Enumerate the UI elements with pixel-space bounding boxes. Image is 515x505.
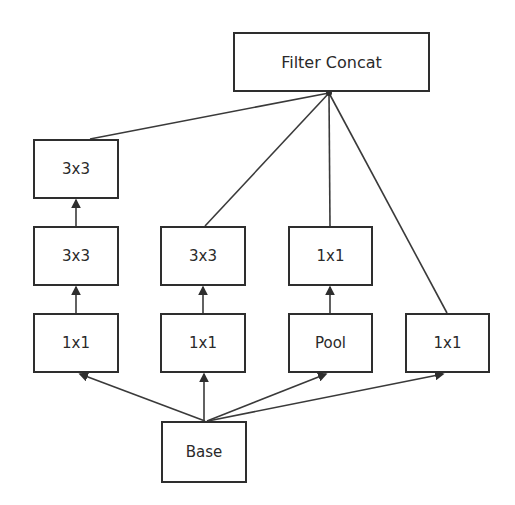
branch3-1x1-node: 1x1 (288, 226, 373, 286)
branch2-3x3-node: 3x3 (160, 226, 246, 286)
branch1-1x1-node: 1x1 (33, 313, 119, 373)
filter-concat-node: Filter Concat (233, 32, 430, 92)
branch1-3x3-top-node: 3x3 (33, 139, 119, 199)
edge-c3-1x1-to-concat (329, 93, 330, 226)
branch1-3x3-middle-node: 3x3 (33, 226, 119, 286)
branch3-pool-node: Pool (288, 313, 373, 373)
edge-base-to-pool (207, 374, 326, 421)
edge-base-to-c1-1x1 (80, 374, 205, 421)
branch4-1x1-node: 1x1 (405, 313, 490, 373)
base-node: Base (161, 421, 247, 483)
edge-base-to-c4-1x1 (208, 374, 443, 421)
branch2-1x1-node: 1x1 (160, 313, 246, 373)
